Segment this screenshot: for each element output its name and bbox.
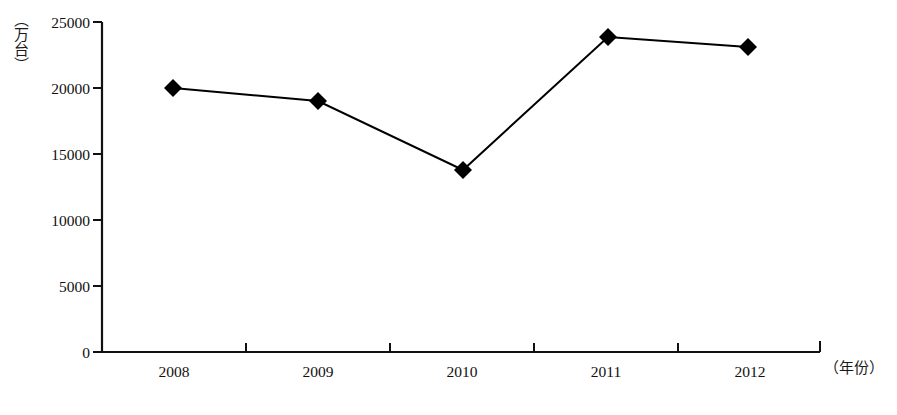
data-markers <box>164 28 757 179</box>
data-point-2012 <box>739 38 757 56</box>
data-line-series-1 <box>173 37 748 170</box>
line-chart-figure: （万台） 25000 20000 15000 10000 5000 0 2008… <box>0 0 897 415</box>
data-point-2008 <box>164 79 182 97</box>
x-axis-ticks <box>246 341 820 352</box>
y-axis-ticks <box>93 22 102 352</box>
data-point-2009 <box>309 92 327 110</box>
plot-area <box>0 0 897 415</box>
